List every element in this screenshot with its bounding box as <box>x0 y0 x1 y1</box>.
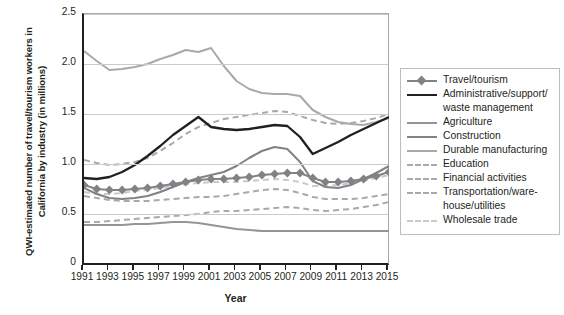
gridline <box>84 14 388 15</box>
y-axis-title: QWI-estimated number of travel/tourism w… <box>23 13 48 271</box>
series-marker <box>181 178 190 187</box>
series-line <box>84 202 389 222</box>
legend-swatch <box>406 186 438 199</box>
legend-swatch <box>406 214 438 227</box>
legend-item: Travel/tourism <box>406 74 555 87</box>
x-tick-mark <box>335 265 336 270</box>
series-marker <box>245 173 254 182</box>
series-marker <box>258 171 267 180</box>
legend-swatch <box>406 172 438 185</box>
x-tick-mark <box>208 265 209 270</box>
y-tick-label: 1.0 <box>46 156 76 167</box>
legend-item: Education <box>406 158 555 171</box>
legend-item: Agriculture <box>406 116 555 129</box>
x-tick-mark <box>259 265 260 270</box>
series-marker <box>169 180 178 189</box>
y-tick-label: 2.0 <box>46 56 76 67</box>
series-marker <box>359 175 368 184</box>
legend-item: Financial activities <box>406 172 555 185</box>
legend-label: Education <box>443 158 489 170</box>
legend-swatch <box>406 158 438 171</box>
legend-item: house/utilities <box>406 200 555 213</box>
series-line <box>84 222 389 231</box>
legend-swatch <box>406 116 438 129</box>
legend-swatch <box>406 74 438 87</box>
legend-swatch <box>406 200 438 213</box>
y-tick-label: 0.5 <box>46 206 76 217</box>
plot-area <box>82 13 389 265</box>
x-axis-title: Year <box>82 293 389 304</box>
legend-item: Durable manufacturing <box>406 144 555 157</box>
series-marker <box>270 170 279 179</box>
series-line <box>84 117 389 179</box>
x-tick-mark <box>285 265 286 270</box>
y-tick-label: 0 <box>46 256 76 267</box>
chart-legend: Travel/tourismAdministrative/support/was… <box>400 68 560 235</box>
legend-item: Wholesale trade <box>406 214 555 227</box>
x-tick-mark <box>81 265 82 270</box>
legend-label: waste management <box>443 102 533 114</box>
x-tick-mark <box>361 265 362 270</box>
series-marker <box>283 169 292 178</box>
legend-label: Travel/tourism <box>443 74 508 86</box>
legend-swatch <box>406 144 438 157</box>
legend-item: Construction <box>406 130 555 143</box>
series-marker <box>130 185 139 194</box>
series-marker <box>296 169 305 178</box>
legend-swatch <box>406 88 438 101</box>
x-tick-mark <box>107 265 108 270</box>
legend-label: Financial activities <box>443 172 527 184</box>
x-tick-mark <box>183 265 184 270</box>
gridline <box>84 64 388 65</box>
gridline <box>84 164 388 165</box>
x-tick-mark <box>234 265 235 270</box>
x-tick-mark <box>310 265 311 270</box>
series-line <box>84 147 389 199</box>
legend-item: Transportation/ware- <box>406 186 555 199</box>
x-tick-mark <box>158 265 159 270</box>
legend-label: Durable manufacturing <box>443 144 547 156</box>
y-tick-label: 1.5 <box>46 106 76 117</box>
y-tick-label: 2.5 <box>46 6 76 17</box>
legend-label: Construction <box>443 130 501 142</box>
legend-label: Transportation/ware- <box>443 186 538 198</box>
legend-item: Administrative/support/ <box>406 88 555 101</box>
gridline <box>84 114 388 115</box>
legend-label: Agriculture <box>443 116 492 128</box>
x-tick-label: 2015 <box>367 271 407 282</box>
legend-item: waste management <box>406 102 555 115</box>
x-tick-mark <box>386 265 387 270</box>
chart-figure: QWI-estimated number of travel/tourism w… <box>0 0 564 315</box>
series-lines <box>84 14 389 264</box>
legend-swatch <box>406 102 438 115</box>
legend-swatch <box>406 130 438 143</box>
x-tick-mark <box>132 265 133 270</box>
legend-label: Wholesale trade <box>443 214 517 226</box>
legend-label: Administrative/support/ <box>443 88 548 100</box>
legend-label: house/utilities <box>443 200 505 212</box>
legend-diamond-marker <box>417 75 427 85</box>
gridline <box>84 214 388 215</box>
